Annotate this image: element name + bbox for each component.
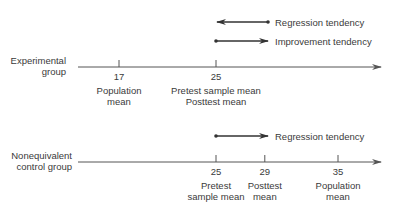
control-tick-caption: mean [326,191,350,202]
experimental-tick-caption: Posttest mean [186,96,247,107]
experimental-tick-label: 25 [211,71,222,82]
experimental-tick-caption: mean [107,96,131,107]
experimental-regression-arrow: Regression tendency [217,17,364,28]
control-tick-caption: Population [316,180,361,191]
experimental-tick-caption: Pretest sample mean [171,85,261,96]
control-tick-caption: Posttest [248,180,283,191]
regression-diagram: Experimental group 17Populationmean25Pre… [0,0,402,207]
control-tick-caption: mean [253,191,277,202]
arrow-origin-dot [266,20,270,24]
control-tick-label: 25 [211,166,222,177]
control-regression-arrow: Regression tendency [214,131,364,142]
regression-tendency-label: Regression tendency [275,17,364,28]
control-tick-caption: sample mean [187,191,244,202]
control-group: Nonequivalent control group 25Pretestsam… [11,131,381,203]
arrow-origin-dot [214,39,218,43]
improvement-tendency-label: Improvement tendency [275,36,372,47]
control-tick-caption: Pretest [201,180,231,191]
experimental-group: Experimental group 17Populationmean25Pre… [11,17,381,108]
experimental-tick-caption: Population [97,85,142,96]
experimental-group-label-line2: group [42,66,66,77]
arrow-origin-dot [214,134,218,138]
control-tick-label: 29 [260,166,271,177]
regression-tendency-label: Regression tendency [275,131,364,142]
control-tick-label: 35 [333,166,344,177]
experimental-improvement-arrow: Improvement tendency [214,36,372,47]
experimental-tick-label: 17 [114,71,125,82]
control-group-label-line2: control group [17,161,72,172]
experimental-group-label-line1: Experimental [11,55,66,66]
control-group-label-line1: Nonequivalent [11,150,72,161]
